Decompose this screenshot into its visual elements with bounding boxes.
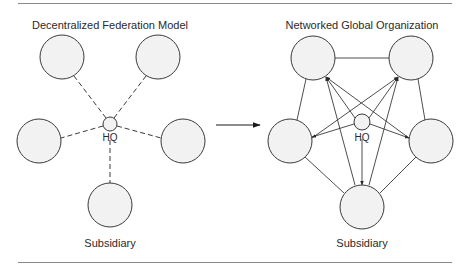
link-hq-top-right	[114, 76, 146, 118]
link-top-right-hq	[369, 77, 398, 118]
subsidiary-node-top-right	[389, 36, 433, 80]
link-hq-left	[312, 124, 354, 137]
right-diagram-title: Networked Global Organization	[286, 19, 439, 31]
link-hq-right	[370, 124, 409, 138]
link-hq-left	[61, 126, 103, 138]
link-hq-right	[117, 126, 161, 138]
diagram-canvas: Decentralized Federation Model HQ Subsid…	[0, 0, 467, 267]
subsidiary-node-right	[409, 119, 453, 163]
subsidiary-node-top-left	[40, 35, 84, 79]
left-hq-label: HQ	[103, 132, 118, 143]
subsidiary-node-bottom	[340, 185, 384, 229]
decentralized-federation-diagram: Decentralized Federation Model HQ Subsid…	[17, 19, 205, 249]
right-hq-label: HQ	[355, 132, 370, 143]
left-subsidiary-label: Subsidiary	[84, 237, 136, 249]
right-subsidiary-label: Subsidiary	[336, 237, 388, 249]
link-top-left-left	[297, 79, 306, 120]
subsidiary-node-left	[268, 119, 312, 163]
subsidiary-node-left	[17, 119, 61, 163]
hq-node	[354, 114, 370, 130]
link-right-bottom	[380, 157, 416, 193]
subsidiary-node-bottom	[88, 183, 132, 227]
subsidiary-node-right	[161, 119, 205, 163]
link-top-right-left	[312, 77, 398, 138]
subsidiary-node-top-right	[136, 35, 180, 79]
link-top-left-hq	[326, 77, 355, 118]
link-top-right-right	[418, 79, 425, 120]
link-hq-top-left	[74, 76, 106, 118]
subsidiary-node-top-left	[291, 36, 335, 80]
networked-global-organization-diagram: Networked Global Organization	[268, 19, 453, 249]
link-left-bottom	[305, 157, 344, 193]
hq-node	[103, 117, 117, 131]
link-top-right-bottom	[369, 77, 398, 185]
left-diagram-title: Decentralized Federation Model	[32, 19, 188, 31]
